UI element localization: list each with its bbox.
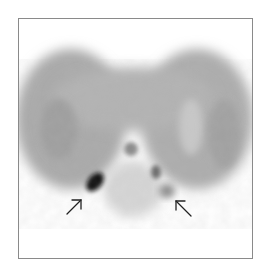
figure-stage: Grayscale nuclear medicine scan (transax… <box>0 0 269 269</box>
noise-texture <box>19 59 252 229</box>
scintigraphy-image <box>19 19 252 258</box>
scan-frame <box>18 18 253 259</box>
lung-fields <box>19 49 252 229</box>
